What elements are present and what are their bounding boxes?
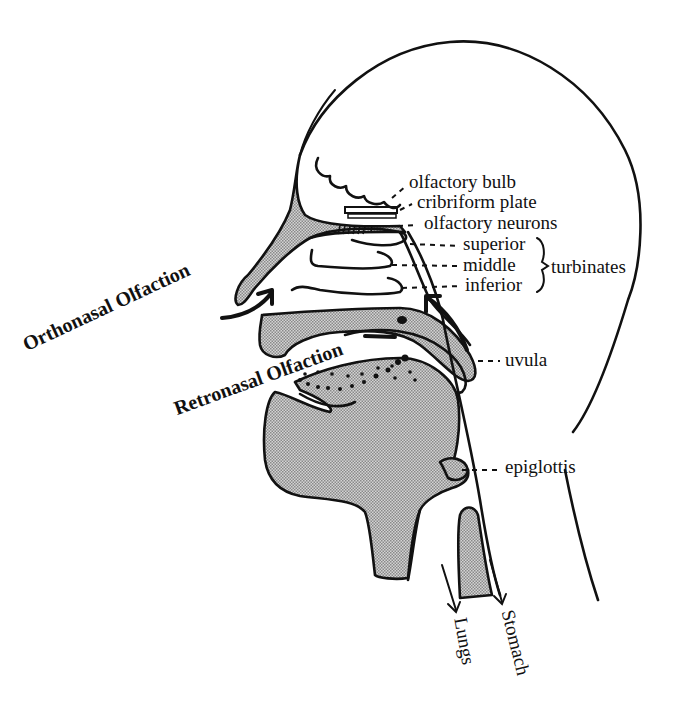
cribriform-plate xyxy=(345,207,397,213)
lungs-arrow xyxy=(442,565,456,610)
label-middle: middle xyxy=(463,255,516,274)
label-turbinates: turbinates xyxy=(551,257,626,276)
leader-olfactory-bulb xyxy=(392,186,406,198)
inferior-turbinate xyxy=(292,278,402,294)
turbinates-bracket xyxy=(537,238,548,292)
leader-cribriform-plate xyxy=(400,204,412,210)
superior-turbinate xyxy=(352,233,406,245)
retronasal-arrow-tail xyxy=(365,336,395,337)
leader-middle xyxy=(392,265,460,266)
label-inferior: inferior xyxy=(465,275,522,294)
label-superior: superior xyxy=(463,234,525,253)
neck-back-outline xyxy=(565,470,598,600)
label-epiglottis: epiglottis xyxy=(505,457,576,476)
leader-superior xyxy=(410,244,460,246)
trachea-esophagus-divider xyxy=(458,508,492,599)
label-uvula: uvula xyxy=(505,350,547,369)
label-cribriform-plate: cribriform plate xyxy=(417,192,537,211)
leader-inferior xyxy=(402,286,462,288)
label-olfactory-neurons: olfactory neurons xyxy=(424,213,557,232)
palate-dark-spot xyxy=(397,316,407,324)
leader-olfactory-neurons xyxy=(398,225,416,226)
label-olfactory-bulb: olfactory bulb xyxy=(409,172,516,191)
middle-turbinate xyxy=(311,250,392,268)
brain-fold xyxy=(316,158,400,208)
tongue xyxy=(264,358,468,579)
